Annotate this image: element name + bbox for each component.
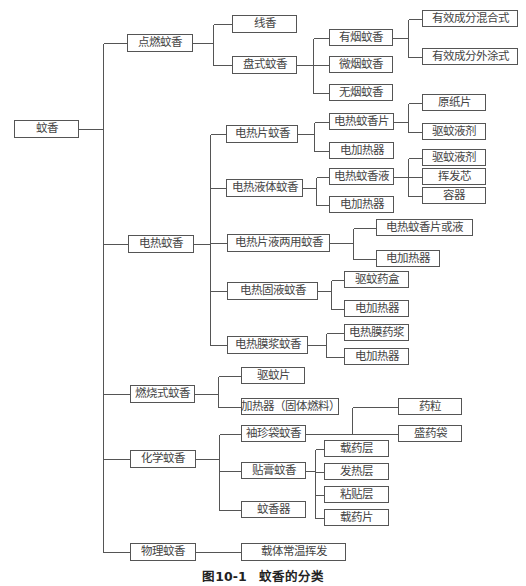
tree-node: 药粒 [398, 398, 462, 415]
tree-node: 电加热器 [344, 300, 409, 317]
tree-node: 贴膏蚊香 [241, 462, 306, 479]
tree-node: 容器 [422, 187, 486, 204]
tree-node: 蚊香 [14, 120, 79, 138]
tree-node: 粘贴层 [324, 486, 389, 503]
tree-node: 燃烧式蚊香 [130, 385, 195, 403]
tree-node: 有效成分混合式 [422, 10, 518, 27]
tree-node: 蚊香器 [241, 501, 306, 518]
tree-node: 驱蚊片 [241, 367, 305, 384]
tree-node: 发热层 [324, 463, 389, 480]
tree-node: 点燃蚊香 [127, 34, 193, 52]
tree-node: 电热蚊香 [128, 235, 194, 253]
tree-node: 盛药袋 [398, 425, 462, 442]
tree-node: 挥发芯 [422, 168, 486, 185]
tree-node: 线香 [232, 15, 297, 33]
tree-node: 电热片液两用蚊香 [227, 234, 330, 252]
tree-node: 电加热器 [329, 142, 394, 159]
tree-node: 电热蚊香片 [329, 113, 394, 130]
figure-caption: 图10-1蚊香的分类 [0, 566, 526, 585]
tree-node: 载药片 [324, 509, 389, 526]
tree-node: 有效成分外涂式 [422, 48, 518, 65]
tree-node: 驱蚊药盒 [344, 271, 409, 288]
tree-node: 驱蚊液剂 [422, 149, 486, 166]
tree-node: 电热片蚊香 [226, 125, 298, 143]
tree-node: 电热固液蚊香 [227, 282, 318, 300]
tree-node: 电热液体蚊香 [226, 179, 303, 197]
tree-node: 加热器（固体燃料） [241, 398, 339, 415]
tree-node: 盘式蚊香 [232, 56, 297, 74]
tree-node: 电热蚊香片或液 [376, 219, 473, 236]
tree-node: 有烟蚊香 [329, 29, 393, 46]
tree-node: 驱蚊液剂 [422, 123, 486, 140]
tree-node: 电加热器 [344, 348, 409, 365]
tree-node: 化学蚊香 [130, 450, 196, 468]
tree-node: 物理蚊香 [130, 543, 196, 561]
figure-number: 图10-1 [202, 569, 246, 584]
tree-node: 电加热器 [329, 196, 394, 213]
tree-node: 载体常温挥发 [241, 543, 346, 561]
tree-node: 微烟蚊香 [329, 56, 393, 73]
tree-node: 载药层 [324, 440, 389, 457]
tree-node: 电热蚊香液 [329, 168, 394, 185]
tree-node: 原纸片 [422, 94, 486, 111]
tree-node: 电热膜浆蚊香 [227, 336, 308, 354]
figure-title: 蚊香的分类 [259, 569, 324, 584]
tree-node: 电加热器 [376, 250, 440, 267]
tree-node: 袖珍袋蚊香 [241, 425, 306, 442]
tree-node: 无烟蚊香 [329, 84, 393, 101]
tree-node: 电热膜药浆 [344, 324, 409, 341]
